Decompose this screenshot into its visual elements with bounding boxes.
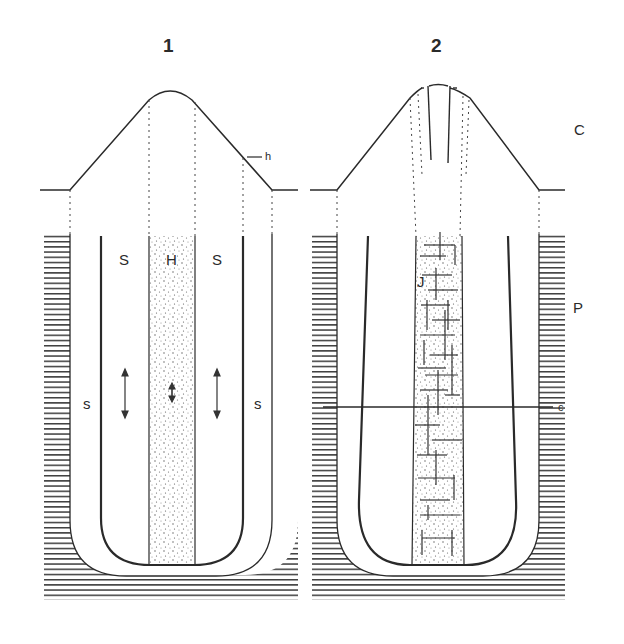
zone-label-p: P xyxy=(573,300,583,315)
figure-2-number: 2 xyxy=(431,36,442,55)
label-hyaline-core: H xyxy=(166,252,177,267)
figure-2 xyxy=(310,85,565,601)
label-section-c: c xyxy=(558,402,564,413)
label-h-pointer: h xyxy=(265,151,271,162)
label-core-j: J xyxy=(417,274,425,289)
zone-label-c: C xyxy=(574,122,585,137)
diagram-drawing xyxy=(0,0,624,644)
figure-1 xyxy=(40,91,298,600)
diagram-canvas: 1 2 S H S s s h J c C P xyxy=(0,0,624,644)
fig1-dotted-guides xyxy=(70,100,272,236)
label-sheath-inner-right: S xyxy=(212,252,222,267)
fig2-cone-outline xyxy=(310,88,565,190)
fig2-dotted-guides xyxy=(337,94,539,236)
label-sheath-outer-left: s xyxy=(83,396,91,411)
figure-1-number: 1 xyxy=(163,36,174,55)
fig1-cone-outline xyxy=(40,91,298,190)
label-sheath-outer-right: s xyxy=(254,396,262,411)
label-sheath-inner-left: S xyxy=(119,252,129,267)
fig2-split-apex xyxy=(421,85,457,164)
